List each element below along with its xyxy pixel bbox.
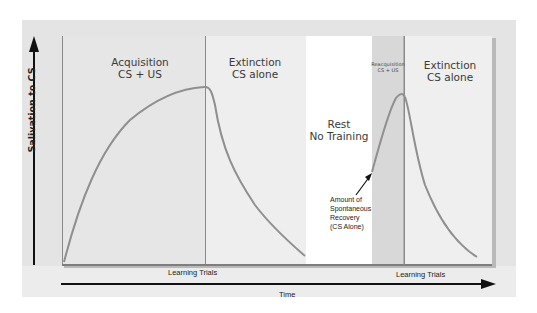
acquisition-subtitle: CS + US bbox=[100, 68, 180, 80]
annotation-line: Spontaneous bbox=[330, 204, 371, 213]
extinction-2-label: Extinction CS alone bbox=[410, 59, 490, 83]
reacquisition-curve bbox=[372, 94, 405, 172]
reacquisition-label: Reacquisition CS + US bbox=[370, 61, 406, 73]
annotation-line: Amount of bbox=[330, 195, 371, 204]
annotation-arrowhead bbox=[365, 173, 372, 181]
acquisition-label: Acquisition CS + US bbox=[100, 56, 180, 80]
extinction-curve-1 bbox=[204, 87, 305, 256]
rest-title: Rest bbox=[304, 118, 374, 130]
extinction-1-title: Extinction bbox=[215, 56, 295, 68]
extinction-curve-2 bbox=[405, 97, 477, 257]
extinction-2-title: Extinction bbox=[410, 59, 490, 71]
classical-conditioning-figure: Acquisition CS + US Extinction CS alone … bbox=[0, 0, 537, 313]
extinction-1-label: Extinction CS alone bbox=[215, 56, 295, 80]
acquisition-title: Acquisition bbox=[100, 56, 180, 68]
extinction-2-subtitle: CS alone bbox=[410, 71, 490, 83]
curves-and-axes bbox=[0, 0, 537, 313]
reacquisition-subtitle: CS + US bbox=[370, 67, 406, 73]
y-axis-label: Salivation to CS bbox=[26, 50, 37, 170]
x-axis-label-right: Learning Trials bbox=[396, 270, 445, 279]
rest-label: Rest No Training bbox=[304, 118, 374, 142]
annotation-line: Recovery bbox=[330, 213, 371, 222]
acquisition-curve bbox=[64, 87, 204, 262]
annotation-line: (CS Alone) bbox=[330, 222, 371, 231]
rest-subtitle: No Training bbox=[304, 130, 374, 142]
x-axis-label-left: Learning Trials bbox=[168, 268, 217, 277]
time-axis-arrowhead-icon bbox=[481, 279, 496, 289]
extinction-1-subtitle: CS alone bbox=[215, 68, 295, 80]
spontaneous-recovery-annotation: Amount of Spontaneous Recovery (CS Alone… bbox=[330, 195, 371, 231]
time-axis-label: Time bbox=[279, 290, 295, 299]
